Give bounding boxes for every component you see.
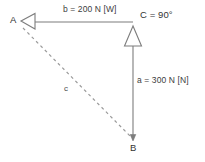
side-a-label: a = 300 N [N] [137,76,189,85]
side-a-arrowhead-icon [125,26,142,46]
point-b-arrowhead-icon [130,135,136,142]
vertex-label-b: B [130,143,136,153]
side-b-label: b = 200 N [W] [63,5,117,14]
vector-diagram: b = 200 N [W] a = 300 N [N] c A B C = 90… [0,0,205,162]
side-c-line [23,28,132,138]
vertex-label-a: A [10,15,16,25]
side-b-arrowhead-icon [21,14,35,30]
vertex-label-c-angle: C = 90° [140,10,173,20]
side-c-label: c [64,85,68,93]
